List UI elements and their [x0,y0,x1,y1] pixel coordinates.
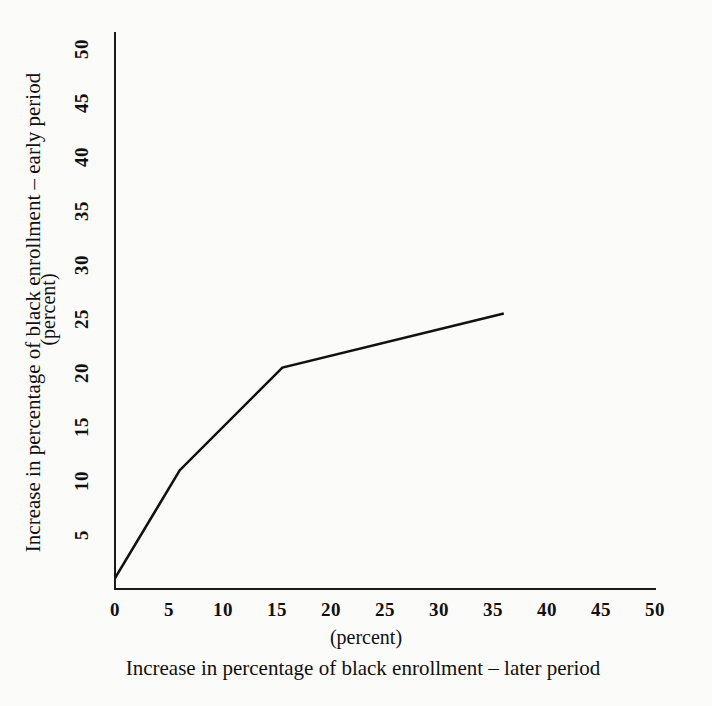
x-tick-label: 20 [311,598,351,622]
data-series-line [115,314,504,579]
x-tick-label: 40 [527,598,567,622]
y-tick-label: 5 [68,515,96,555]
y-tick-label: 30 [68,245,96,285]
x-tick-label: 35 [473,598,513,622]
x-axis-unit-caption: (percent) [0,626,712,649]
x-tick-label: 10 [203,598,243,622]
chart-figure: 05101520253035404550 5101520253035404550… [0,0,712,706]
x-tick-label: 5 [149,598,189,622]
y-tick-label: 20 [68,353,96,393]
x-axis-title: Increase in percentage of black enrollme… [0,656,712,681]
y-tick-label: 45 [68,83,96,123]
y-axis-line [114,32,116,590]
y-tick-label: 35 [68,191,96,231]
y-tick-label: 10 [68,461,96,501]
x-tick-label: 15 [257,598,297,622]
y-tick-label: 40 [68,137,96,177]
x-tick-label: 50 [635,598,675,622]
x-tick-label: 30 [419,598,459,622]
x-tick-label: 25 [365,598,405,622]
y-axis-title: Increase in percentage of black enrollme… [21,13,46,613]
y-tick-label: 50 [68,29,96,69]
y-tick-label: 25 [68,299,96,339]
x-tick-label: 45 [581,598,621,622]
x-axis-line [114,588,656,590]
y-tick-label: 15 [68,407,96,447]
